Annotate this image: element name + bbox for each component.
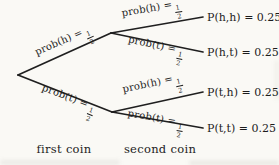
fraction-denominator: 2 [177,12,183,20]
leaf-label-tails-tails: P(t,t) = 0.25 [207,123,276,134]
stage-label-first-coin: first coin [36,144,91,156]
leaf-label-tails-heads: P(t,h) = 0.25 [207,87,279,98]
fraction-denominator: 2 [178,86,184,94]
leaf-label-heads-tails: P(h,t) = 0.25 [207,47,279,58]
fraction-denominator: 2 [176,131,182,139]
fraction-denominator: 2 [89,37,96,45]
stage-label-second-coin: second coin [124,144,196,156]
probability-tree-figure: prob(h) =12 prob(t) =12 prob(h) =12 prob… [0,0,279,165]
fraction-denominator: 2 [175,59,181,67]
leaf-label-heads-heads: P(h,h) = 0.25 [207,12,279,23]
